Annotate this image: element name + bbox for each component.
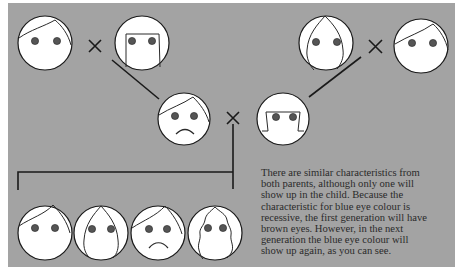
face-child-1 [18, 205, 72, 260]
face-grandparent-2 [115, 16, 169, 70]
face-grandparent-3 [299, 16, 353, 70]
caption-line: show up again, as you can see. [261, 245, 461, 256]
face-grandparent-4 [394, 19, 448, 73]
caption-line: show up in the child. Because the [261, 189, 461, 200]
caption-line: both parents, although only one will [261, 178, 461, 189]
caption-line: brown eyes. However, in the next [261, 223, 461, 234]
face-child-4 [188, 206, 242, 260]
face-child-2 [74, 206, 128, 260]
caption-line: There are similar characteristics from [261, 167, 461, 178]
face-grandparent-1 [18, 16, 72, 70]
cross-icon [227, 112, 239, 124]
caption-line: generation the blue eye colour will [261, 234, 461, 245]
caption-line: characteristic for blue eye colour is [261, 201, 461, 212]
children-bracket [18, 172, 233, 190]
caption-line: recessive, the first generation will hav… [261, 212, 461, 223]
face-parent-2 [257, 93, 309, 145]
cross-icon [369, 40, 382, 53]
face-parent-1 [158, 93, 210, 145]
cross-icon [89, 40, 101, 52]
face-child-3 [131, 206, 185, 260]
caption-text: There are similar characteristics from b… [261, 167, 461, 257]
